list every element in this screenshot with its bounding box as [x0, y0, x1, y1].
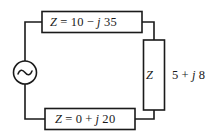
top-impedance-imag: 35 [104, 15, 117, 29]
wire-top-left [25, 22, 42, 61]
top-impedance-real: 10 [71, 15, 84, 29]
ac-voltage-source [14, 61, 37, 84]
wire-bottom-right [135, 110, 154, 119]
top-impedance-label: Z=10−j35 [50, 13, 117, 31]
right-impedance-value: 5+j8 [172, 66, 205, 84]
circuit-diagram: Z=10−j35 Z=0+j20 Z 5+j8 [0, 0, 214, 140]
bottom-impedance-symbol: Z [55, 112, 62, 126]
right-impedance-real: 5 [172, 68, 179, 82]
right-impedance-symbol: Z [146, 66, 153, 84]
right-impedance-sign: + [182, 68, 189, 82]
right-impedance-j: j [192, 68, 196, 82]
wire-group [25, 22, 154, 119]
bottom-impedance-j: j [96, 112, 100, 126]
right-impedance-imag: 8 [199, 68, 206, 82]
bottom-impedance-label: Z=0+j20 [55, 110, 115, 128]
bottom-impedance-sign: + [85, 112, 92, 126]
top-impedance-symbol: Z [50, 15, 57, 29]
bottom-impedance-imag: 20 [102, 112, 115, 126]
bottom-impedance-equals: = [65, 112, 72, 126]
bottom-impedance-real: 0 [76, 112, 83, 126]
top-impedance-j: j [97, 15, 101, 29]
wire-bottom-left [25, 84, 45, 119]
wire-top-right [142, 22, 154, 40]
top-impedance-equals: = [60, 15, 67, 29]
top-impedance-sign: − [87, 15, 94, 29]
